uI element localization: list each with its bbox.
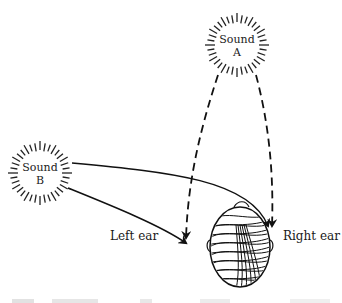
head-top-view-icon [205, 202, 276, 291]
figure-caption-clipped [12, 299, 330, 303]
sound-a-label: Sound A [212, 33, 262, 59]
sound-b-label: Sound B [15, 161, 65, 187]
sound-b-label-line2: B [15, 174, 65, 187]
sound-a-label-line1: Sound [212, 33, 262, 46]
sound-localization-diagram [0, 0, 342, 303]
left-ear-label: Left ear [110, 229, 158, 243]
path-a-to-right-ear [256, 75, 272, 226]
path-a-to-left-ear [186, 75, 218, 238]
sound-b-label-line1: Sound [15, 161, 65, 174]
sound-a-label-line2: A [212, 46, 262, 59]
right-ear-label: Right ear [283, 229, 340, 243]
